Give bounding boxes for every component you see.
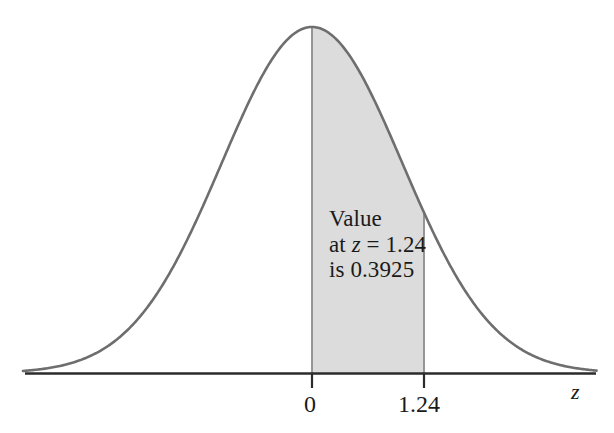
- normal-curve-figure: Value at z = 1.24 is 0.3925 0 1.24 z: [0, 0, 614, 433]
- normal-distribution-curve: [23, 27, 597, 371]
- axis-name-label: z: [571, 379, 580, 405]
- shaded-area-region: [312, 27, 424, 373]
- callout-line-2-prefix: at: [329, 232, 352, 257]
- callout-line-2: at z = 1.24: [329, 232, 426, 258]
- axis-tick-label-1-24: 1.24: [398, 391, 440, 418]
- callout-line-2-suffix: = 1.24: [361, 232, 426, 257]
- callout-line-3: is 0.3925: [329, 257, 426, 283]
- axis-tick-label-0: 0: [304, 391, 316, 418]
- callout-line-2-variable: z: [352, 232, 361, 257]
- value-callout: Value at z = 1.24 is 0.3925: [329, 206, 426, 283]
- distribution-plot: [0, 0, 614, 433]
- callout-line-1: Value: [329, 206, 426, 232]
